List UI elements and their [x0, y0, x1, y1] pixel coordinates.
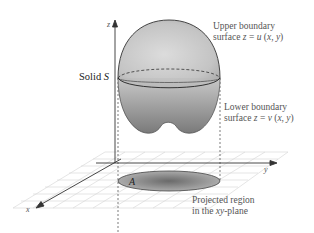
- solid-label: Solid S: [79, 71, 110, 82]
- z-axis-label: z: [106, 20, 111, 29]
- y-axis-arrow-icon: [270, 161, 277, 166]
- solid-upper-dome: [118, 20, 220, 83]
- projected-region-label: Projected region: [192, 195, 255, 205]
- y-axis-label: y: [263, 165, 268, 174]
- solid-diagram: z y x Solid S Upper boundary surface z =…: [0, 0, 314, 233]
- upper-boundary-label: Upper boundary: [213, 21, 275, 31]
- x-axis-label: x: [25, 205, 30, 214]
- region-label: A: [128, 176, 136, 187]
- projected-region-plane: in the xy-plane: [192, 206, 248, 216]
- upper-boundary-equation: surface z = u (x, y): [213, 32, 283, 43]
- lower-boundary-label: Lower boundary: [224, 102, 287, 112]
- x-axis-arrow-icon: [36, 202, 44, 209]
- z-axis-arrow-icon: [113, 20, 118, 27]
- lower-boundary-equation: surface z = v (x, y): [224, 113, 294, 124]
